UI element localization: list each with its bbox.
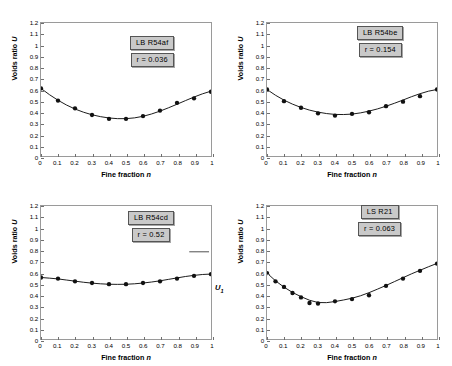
y-tick-label: 0.9 — [256, 235, 264, 242]
x-tick-mark — [179, 337, 180, 340]
data-point — [192, 274, 196, 278]
x-tick-mark — [58, 337, 59, 340]
data-point — [158, 279, 162, 283]
y-tick-label: 0.9 — [256, 52, 264, 59]
x-tick-label: 0.9 — [417, 342, 425, 349]
y-tick-label: 0.7 — [30, 258, 38, 265]
y-tick-label: 0.6 — [256, 269, 264, 276]
y-tick-label: 1.1 — [256, 30, 264, 37]
plot-area — [266, 205, 438, 340]
y-axis-tick-labels: 00.10.20.30.40.50.60.70.80.911.11.2 — [242, 205, 264, 340]
y-tick-label: 0.9 — [30, 235, 38, 242]
x-tick-mark — [301, 154, 302, 157]
x-tick-label: 0.7 — [156, 159, 164, 166]
data-point — [350, 112, 354, 116]
y-tick-mark — [267, 229, 270, 230]
fit-curve — [267, 263, 437, 302]
x-tick-mark — [161, 154, 162, 157]
y-tick-mark — [41, 307, 44, 308]
x-tick-mark — [353, 154, 354, 157]
y-tick-label: 1 — [35, 224, 38, 231]
x-tick-label: 0.7 — [382, 159, 390, 166]
data-point — [435, 87, 437, 91]
data-point — [316, 111, 320, 115]
y-tick-mark — [41, 240, 44, 241]
x-tick-label: 0 — [264, 342, 267, 349]
x-tick-label: 0.8 — [399, 159, 407, 166]
data-point — [384, 104, 388, 108]
y-tick-mark — [41, 206, 44, 207]
x-tick-label: 1 — [436, 159, 439, 166]
x-tick-mark — [405, 154, 406, 157]
x-tick-mark — [267, 337, 268, 340]
data-point — [56, 276, 60, 280]
x-tick-label: 0.5 — [122, 159, 130, 166]
data-point — [401, 100, 405, 104]
data-point — [158, 108, 162, 112]
y-tick-mark — [267, 285, 270, 286]
y-tick-mark — [267, 23, 270, 24]
data-point — [282, 285, 286, 289]
x-tick-mark — [93, 154, 94, 157]
x-tick-mark — [93, 337, 94, 340]
x-tick-mark — [387, 154, 388, 157]
y-tick-mark — [267, 102, 270, 103]
x-tick-mark — [196, 154, 197, 157]
y-tick-mark — [41, 79, 44, 80]
chart-label-stack: LB R54be r = 0.154 — [357, 26, 403, 57]
y-tick-label: 0.2 — [256, 131, 264, 138]
x-tick-mark — [267, 154, 268, 157]
y-tick-mark — [41, 102, 44, 103]
r-value-tag: r = 0.154 — [359, 43, 402, 57]
x-tick-label: 0 — [38, 342, 41, 349]
y-tick-label: 0.3 — [30, 303, 38, 310]
x-tick-mark — [353, 337, 354, 340]
y-tick-mark — [41, 285, 44, 286]
y-tick-label: 0.5 — [30, 280, 38, 287]
data-point — [90, 281, 94, 285]
data-point — [273, 279, 277, 283]
x-tick-label: 0.5 — [122, 342, 130, 349]
y-tick-label: 1.2 — [256, 202, 264, 209]
data-point — [418, 94, 422, 98]
x-tick-mark — [319, 337, 320, 340]
x-axis-title: Fine fraction n — [266, 353, 438, 362]
y-tick-label: 0.8 — [256, 247, 264, 254]
x-tick-label: 0.6 — [139, 159, 147, 166]
y-tick-label: 0.3 — [256, 120, 264, 127]
y-axis-tick-labels: 00.10.20.30.40.50.60.70.80.911.11.2 — [16, 205, 38, 340]
data-point — [175, 101, 179, 105]
x-tick-mark — [196, 337, 197, 340]
plot-svg — [267, 206, 437, 339]
data-point — [56, 98, 60, 102]
x-tick-mark — [144, 337, 145, 340]
x-axis-title: Fine fraction n — [266, 170, 438, 179]
y-tick-mark — [267, 262, 270, 263]
x-tick-mark — [213, 337, 214, 340]
y-tick-label: 1 — [261, 41, 264, 48]
y-tick-label: 1.2 — [30, 202, 38, 209]
x-tick-label: 0.5 — [348, 159, 356, 166]
y-tick-label: 0.5 — [30, 97, 38, 104]
x-tick-mark — [336, 337, 337, 340]
data-point — [290, 291, 294, 295]
x-tick-mark — [75, 154, 76, 157]
y-tick-label: 0.4 — [30, 292, 38, 299]
y-tick-mark — [41, 57, 44, 58]
y-tick-label: 0.3 — [30, 120, 38, 127]
x-tick-mark — [319, 154, 320, 157]
y-tick-mark — [267, 206, 270, 207]
y-tick-mark — [41, 217, 44, 218]
y-tick-label: 0.7 — [256, 75, 264, 82]
data-point — [418, 269, 422, 273]
y-tick-mark — [267, 330, 270, 331]
x-tick-label: 0.9 — [191, 159, 199, 166]
x-tick-label: 0.4 — [331, 342, 339, 349]
data-point — [73, 279, 77, 283]
y-tick-label: 1.2 — [256, 19, 264, 26]
y-tick-mark — [267, 68, 270, 69]
data-point — [175, 276, 179, 280]
x-tick-label: 0.1 — [53, 159, 61, 166]
y-tick-mark — [267, 251, 270, 252]
y-tick-mark — [41, 113, 44, 114]
